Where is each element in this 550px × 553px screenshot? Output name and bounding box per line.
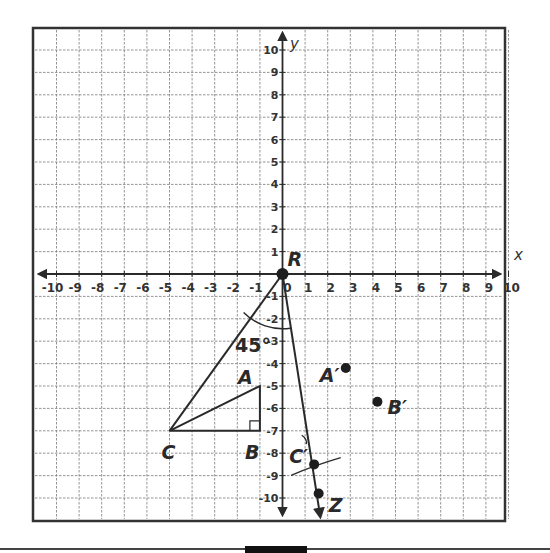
y-tick-label: 6 (271, 134, 279, 147)
x-tick-label: 6 (417, 281, 425, 295)
y-tick-label: 4 (271, 178, 279, 191)
label-b-prime: B′ (387, 396, 407, 418)
y-tick-label: 3 (271, 201, 279, 214)
label-a-prime: A′ (318, 364, 340, 386)
angle-label: 45° (235, 334, 271, 356)
x-tick-label: 7 (440, 281, 448, 295)
y-tick-label: 10 (263, 44, 279, 57)
coordinate-plane: xy -10-9-8-7-6-5-4-3-2-10123456789101098… (0, 0, 550, 553)
y-tick-label: 9 (271, 66, 279, 79)
right-angle-marker (250, 421, 260, 431)
label-r: R (288, 248, 303, 270)
y-tick-label: -9 (266, 470, 278, 483)
y-tick-label: -7 (266, 425, 278, 438)
y-tick-label: -6 (266, 402, 279, 415)
x-tick-label: 1 (304, 281, 312, 295)
x-tick-label: 9 (485, 281, 493, 295)
x-tick-label: 10 (503, 281, 520, 295)
y-tick-label: -8 (266, 447, 278, 460)
x-tick-label: 5 (394, 281, 402, 295)
y-tick-label: -5 (266, 380, 278, 393)
point-b-prime (372, 397, 382, 407)
point-a-prime (341, 363, 351, 373)
page-divider-tab (245, 546, 307, 553)
x-tick-label: 4 (372, 281, 380, 295)
point-z (314, 489, 324, 499)
label-a: A (236, 366, 253, 388)
y-tick-label: -2 (266, 313, 278, 326)
y-axis-label: y (289, 35, 300, 53)
x-tick-label: -3 (204, 281, 217, 295)
x-tick-label: -7 (114, 281, 127, 295)
x-tick-label: 2 (327, 281, 335, 295)
y-tick-label: 5 (271, 156, 279, 169)
label-z: Z (328, 494, 344, 516)
x-tick-label: -5 (159, 281, 172, 295)
x-tick-label: 8 (462, 281, 470, 295)
y-tick-label: -4 (266, 358, 279, 371)
y-tick-label: -10 (259, 492, 279, 505)
x-tick-label: 3 (349, 281, 357, 295)
y-tick-label: 8 (271, 89, 279, 102)
x-tick-label: -10 (42, 281, 64, 295)
compass-arc-small (302, 435, 307, 444)
x-tick-label: -6 (136, 281, 149, 295)
y-tick-label: 7 (271, 111, 279, 124)
y-tick-label: 1 (271, 246, 279, 259)
label-b: B (245, 441, 259, 463)
label-c-prime: C′ (289, 445, 308, 467)
point-c-prime (309, 459, 319, 469)
x-tick-label: -4 (181, 281, 194, 295)
x-axis-label: x (513, 246, 523, 264)
label-c: C (162, 441, 176, 463)
x-tick-label: -1 (249, 281, 262, 295)
y-tick-label: 2 (271, 223, 279, 236)
x-tick-label: -8 (91, 281, 104, 295)
x-tick-label: -9 (68, 281, 81, 295)
x-tick-label: -2 (227, 281, 240, 295)
ray-rz (283, 274, 320, 514)
